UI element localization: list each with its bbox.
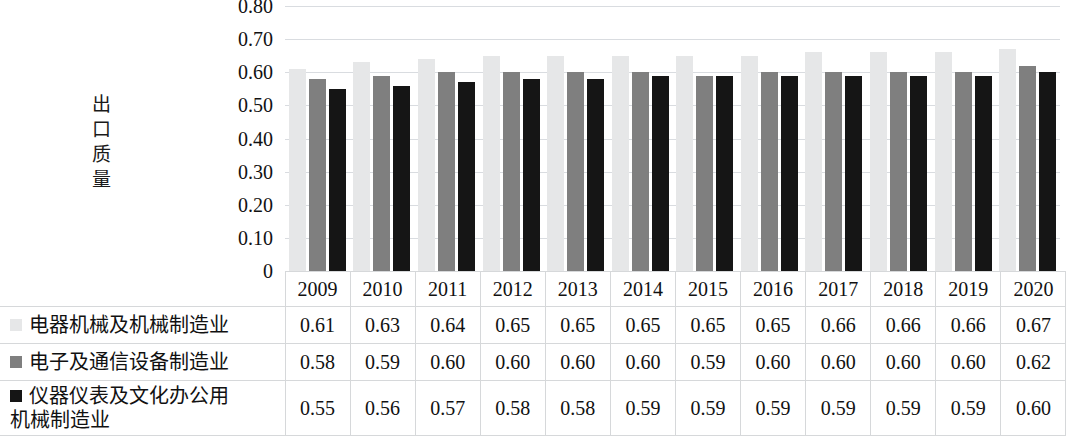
data-table-wrapper: 2009201020112012201320142015201620172018… [0, 271, 1066, 447]
value-cell: 0.60 [1001, 381, 1066, 436]
bar [716, 76, 733, 271]
bar-group [866, 6, 931, 271]
year-header-cell: 2009 [285, 272, 350, 307]
table-row: 电子及通信设备制造业0.580.590.600.600.600.600.590.… [0, 344, 1066, 381]
value-cell: 0.66 [936, 307, 1001, 344]
bar [825, 72, 842, 271]
value-cell: 0.59 [871, 381, 936, 436]
value-cell: 0.56 [350, 381, 415, 436]
year-header-cell: 2013 [545, 272, 610, 307]
data-table: 2009201020112012201320142015201620172018… [0, 271, 1066, 436]
bar [418, 59, 435, 271]
bar-group [995, 6, 1060, 271]
value-cell: 0.60 [610, 344, 675, 381]
bar [483, 56, 500, 271]
bar-group [737, 6, 802, 271]
bar [309, 79, 326, 271]
value-cell: 0.60 [806, 344, 871, 381]
y-axis-tick-label: 0.10 [238, 228, 273, 248]
bar [870, 52, 887, 271]
value-cell: 0.66 [806, 307, 871, 344]
value-cell: 0.65 [480, 307, 545, 344]
bar-groups [285, 6, 1060, 271]
bar-group [350, 6, 415, 271]
legend-item-1[interactable]: 电子及通信设备制造业 [0, 344, 285, 381]
value-cell: 0.59 [610, 381, 675, 436]
legend-label: 电子及通信设备制造业 [29, 351, 229, 373]
value-cell: 0.60 [415, 344, 480, 381]
y-axis-tick-label: 0.40 [238, 129, 273, 149]
bar [523, 79, 540, 271]
bar [547, 56, 564, 271]
bar [587, 79, 604, 271]
bar-group [802, 6, 867, 271]
legend-item-2[interactable]: 仪器仪表及文化办公用机械制造业 [0, 381, 285, 436]
legend-item-0[interactable]: 电器机械及机械制造业 [0, 307, 285, 344]
value-cell: 0.55 [285, 381, 350, 436]
export-quality-bar-chart: 出口质量 0.800.700.600.500.400.300.200.100 2… [0, 0, 1066, 447]
bar [438, 72, 455, 271]
year-header-cell: 2018 [871, 272, 936, 307]
value-cell: 0.64 [415, 307, 480, 344]
bar [676, 56, 693, 271]
bar [329, 89, 346, 271]
y-axis-tick-labels: 0.800.700.600.500.400.300.200.100 [215, 6, 277, 271]
year-header-cell: 2019 [936, 272, 1001, 307]
value-cell: 0.66 [871, 307, 936, 344]
year-header-cell: 2010 [350, 272, 415, 307]
table-row: 电器机械及机械制造业0.610.630.640.650.650.650.650.… [0, 307, 1066, 344]
year-header-cell: 2016 [741, 272, 806, 307]
bar [805, 52, 822, 271]
y-axis-tick-label: 0.30 [238, 162, 273, 182]
bar [890, 72, 907, 271]
value-cell: 0.58 [285, 344, 350, 381]
value-cell: 0.60 [480, 344, 545, 381]
legend-label-line2: 机械制造业 [10, 409, 110, 431]
bar [652, 76, 669, 271]
bar [393, 86, 410, 272]
bar [612, 56, 629, 271]
value-cell: 0.65 [545, 307, 610, 344]
bar-group [608, 6, 673, 271]
table-row: 仪器仪表及文化办公用机械制造业0.550.560.570.580.580.590… [0, 381, 1066, 436]
value-cell: 0.60 [936, 344, 1001, 381]
bar [999, 49, 1016, 271]
bar [632, 72, 649, 271]
value-cell: 0.59 [741, 381, 806, 436]
legend-swatch-icon [10, 356, 22, 368]
legend-label: 仪器仪表及文化办公用 [29, 385, 229, 407]
value-cell: 0.57 [415, 381, 480, 436]
bar [935, 52, 952, 271]
legend-swatch-icon [10, 319, 22, 331]
bar-group [543, 6, 608, 271]
value-cell: 0.59 [936, 381, 1001, 436]
bar [567, 72, 584, 271]
value-cell: 0.59 [675, 344, 740, 381]
bar [289, 69, 306, 271]
value-cell: 0.63 [350, 307, 415, 344]
table-header-row: 2009201020112012201320142015201620172018… [0, 272, 1066, 307]
year-header-cell: 2014 [610, 272, 675, 307]
table-corner-spacer [0, 272, 285, 307]
value-cell: 0.67 [1001, 307, 1066, 344]
year-header-cell: 2011 [415, 272, 480, 307]
y-axis-tick-label: 0.50 [238, 95, 273, 115]
bar [373, 76, 390, 271]
value-cell: 0.65 [610, 307, 675, 344]
bar-group [672, 6, 737, 271]
plot-area [285, 6, 1060, 271]
bar [503, 72, 520, 271]
value-cell: 0.59 [806, 381, 871, 436]
y-axis-title: 出口质量 [84, 92, 118, 192]
value-cell: 0.58 [480, 381, 545, 436]
year-header-cell: 2020 [1001, 272, 1066, 307]
y-axis-tick-label: 0.80 [238, 0, 273, 16]
value-cell: 0.60 [741, 344, 806, 381]
bar [1039, 72, 1056, 271]
bar-group [414, 6, 479, 271]
bar [781, 76, 798, 271]
year-header-cell: 2017 [806, 272, 871, 307]
value-cell: 0.65 [741, 307, 806, 344]
bar [353, 62, 370, 271]
bar [696, 76, 713, 271]
